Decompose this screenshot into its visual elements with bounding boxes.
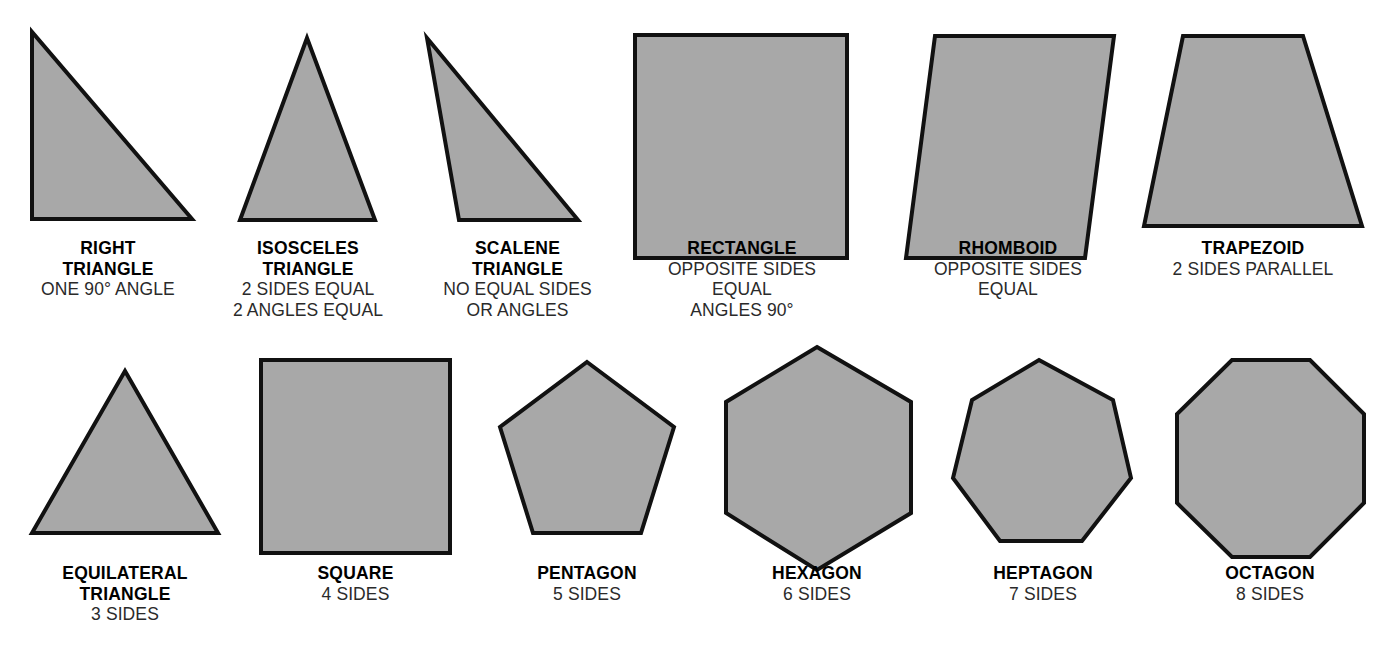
shape-description-scalene-triangle: OR ANGLES [415,300,620,321]
shape-description-rhomboid: EQUAL [900,279,1116,300]
shape-description-equilateral-triangle: 3 SIDES [25,604,225,625]
shape-description-right-triangle: ONE 90° ANGLE [8,279,208,300]
shape-rectangle [635,35,847,258]
shape-label-rectangle: RECTANGLE [636,238,848,259]
shape-label-rhomboid: RHOMBOID [900,238,1116,259]
caption-pentagon: PENTAGON5 SIDES [487,563,687,604]
shape-rhomboid [906,36,1114,258]
shape-label-hexagon: HEXAGON [718,563,916,584]
caption-rectangle: RECTANGLEOPPOSITE SIDESEQUALANGLES 90° [636,238,848,321]
shape-hexagon [726,347,911,570]
shape-label-equilateral-triangle: EQUILATERAL [25,563,225,584]
shape-label-scalene-triangle: TRIANGLE [415,259,620,280]
shape-description-rectangle: ANGLES 90° [636,300,848,321]
shape-description-isosceles-triangle: 2 ANGLES EQUAL [208,300,408,321]
shape-label-equilateral-triangle: TRIANGLE [25,584,225,605]
caption-square: SQUARE4 SIDES [258,563,453,604]
shape-label-heptagon: HEPTAGON [945,563,1141,584]
shape-description-trapezoid: 2 SIDES PARALLEL [1143,259,1363,280]
caption-equilateral-triangle: EQUILATERALTRIANGLE3 SIDES [25,563,225,625]
shape-label-trapezoid: TRAPEZOID [1143,238,1363,259]
shape-description-heptagon: 7 SIDES [945,584,1141,605]
shape-label-isosceles-triangle: TRIANGLE [208,259,408,280]
shape-label-right-triangle: TRIANGLE [8,259,208,280]
shapes-reference-chart: RIGHTTRIANGLEONE 90° ANGLEISOSCELESTRIAN… [0,0,1390,667]
shape-right-triangle [32,32,192,219]
shape-label-pentagon: PENTAGON [487,563,687,584]
shape-trapezoid [1144,36,1362,226]
caption-scalene-triangle: SCALENETRIANGLENO EQUAL SIDESOR ANGLES [415,238,620,321]
shape-description-scalene-triangle: NO EQUAL SIDES [415,279,620,300]
shape-pentagon [500,362,674,533]
shape-heptagon [953,360,1131,541]
caption-heptagon: HEPTAGON7 SIDES [945,563,1141,604]
shape-label-right-triangle: RIGHT [8,238,208,259]
shape-label-scalene-triangle: SCALENE [415,238,620,259]
shape-equilateral-triangle [32,371,218,533]
caption-right-triangle: RIGHTTRIANGLEONE 90° ANGLE [8,238,208,300]
shape-octagon [1177,360,1364,557]
caption-octagon: OCTAGON8 SIDES [1172,563,1368,604]
shape-square [261,360,450,553]
shape-description-rectangle: EQUAL [636,279,848,300]
shape-description-rectangle: OPPOSITE SIDES [636,259,848,280]
shape-isosceles-triangle [240,38,375,220]
caption-isosceles-triangle: ISOSCELESTRIANGLE2 SIDES EQUAL2 ANGLES E… [208,238,408,321]
caption-rhomboid: RHOMBOIDOPPOSITE SIDESEQUAL [900,238,1116,300]
shape-description-rhomboid: OPPOSITE SIDES [900,259,1116,280]
shape-label-octagon: OCTAGON [1172,563,1368,584]
shape-description-pentagon: 5 SIDES [487,584,687,605]
shape-description-octagon: 8 SIDES [1172,584,1368,605]
shape-scalene-triangle [427,38,578,220]
shape-label-isosceles-triangle: ISOSCELES [208,238,408,259]
caption-hexagon: HEXAGON6 SIDES [718,563,916,604]
shape-description-hexagon: 6 SIDES [718,584,916,605]
shape-label-square: SQUARE [258,563,453,584]
shape-description-square: 4 SIDES [258,584,453,605]
caption-trapezoid: TRAPEZOID2 SIDES PARALLEL [1143,238,1363,279]
shape-description-isosceles-triangle: 2 SIDES EQUAL [208,279,408,300]
